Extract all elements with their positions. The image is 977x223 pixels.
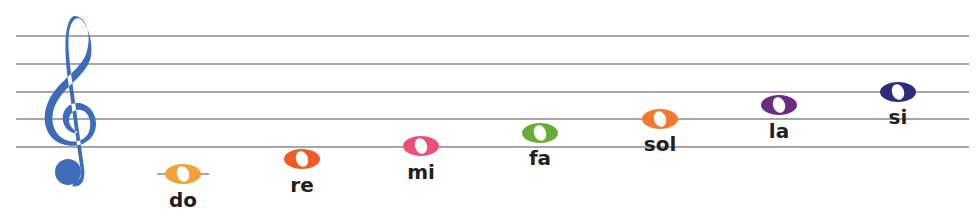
treble-clef-icon <box>45 16 96 186</box>
music-staff <box>0 0 977 223</box>
note-label-sol: sol <box>644 134 677 154</box>
note-mi-icon <box>403 136 439 156</box>
note-label-fa: fa <box>529 148 551 168</box>
note-sol-icon <box>642 109 678 129</box>
staff-lines <box>16 36 969 147</box>
note-la-icon <box>761 95 797 115</box>
note-label-la: la <box>769 121 789 141</box>
note-si-icon <box>880 82 916 102</box>
note-re-icon <box>284 149 320 169</box>
note-label-re: re <box>290 175 313 195</box>
note-label-mi: mi <box>407 162 435 182</box>
note-fa-icon <box>522 123 558 143</box>
note-label-do: do <box>169 190 197 210</box>
note-label-si: si <box>889 107 908 127</box>
note-do-icon <box>157 164 209 184</box>
